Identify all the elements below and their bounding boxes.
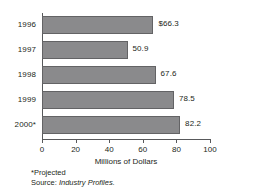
- bar-row: 50.9: [42, 41, 210, 59]
- bar-row: 82.2: [42, 116, 210, 134]
- x-axis-tick-label: 100: [203, 145, 216, 154]
- x-axis-tick-label: 0: [40, 145, 44, 154]
- category-label: 1999: [18, 95, 36, 104]
- bar: [42, 91, 174, 109]
- bar-row: 67.6: [42, 66, 210, 84]
- x-axis-line: [42, 139, 210, 140]
- category-label: 2000*: [15, 120, 36, 129]
- note-source-name: Industry Profiles.: [59, 178, 115, 187]
- chart-notes: *Projected Source: Industry Profiles.: [31, 168, 115, 188]
- x-axis-tick: [42, 139, 43, 143]
- category-label: 1996: [18, 20, 36, 29]
- bar-value-label: 67.6: [161, 69, 177, 78]
- bar-value-label: 78.5: [179, 94, 195, 103]
- bar-value-label: 50.9: [133, 44, 149, 53]
- note-projected: *Projected: [31, 168, 115, 178]
- bar: [42, 116, 180, 134]
- x-axis-tick-label: 40: [105, 145, 114, 154]
- x-axis-tick: [76, 139, 77, 143]
- category-label: 1998: [18, 70, 36, 79]
- note-source-prefix: Source:: [31, 178, 59, 187]
- bar-row: $66.3: [42, 16, 210, 34]
- x-axis-label: Millions of Dollars: [42, 157, 210, 166]
- note-source: Source: Industry Profiles.: [31, 178, 115, 188]
- x-axis-tick-label: 20: [71, 145, 80, 154]
- bar-chart-figure: 020406080100 $66.3199650.9199767.6199878…: [0, 0, 254, 194]
- x-axis-tick: [210, 139, 211, 143]
- bar-value-label: 82.2: [185, 119, 201, 128]
- x-axis-tick: [109, 139, 110, 143]
- x-axis-tick-label: 60: [138, 145, 147, 154]
- bar: [42, 66, 156, 84]
- x-axis-tick: [176, 139, 177, 143]
- x-axis-tick: [143, 139, 144, 143]
- bar: [42, 41, 128, 59]
- x-axis-tick-label: 80: [172, 145, 181, 154]
- bar-value-label: $66.3: [158, 19, 179, 28]
- bar-row: 78.5: [42, 91, 210, 109]
- bar: [42, 16, 153, 34]
- category-label: 1997: [18, 45, 36, 54]
